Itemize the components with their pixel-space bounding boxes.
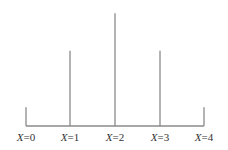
labels-group: X=0X=1X=2X=3X=4 [16,131,214,143]
x-tick-label: X=2 [105,131,124,143]
x-tick-label: X=0 [16,131,36,143]
x-tick-label: X=3 [150,131,170,143]
probability-line-chart: X=0X=1X=2X=3X=4 [0,0,228,150]
x-tick-label: X=1 [60,131,79,143]
x-tick-label: X=4 [194,131,214,143]
bars-group [26,13,204,126]
